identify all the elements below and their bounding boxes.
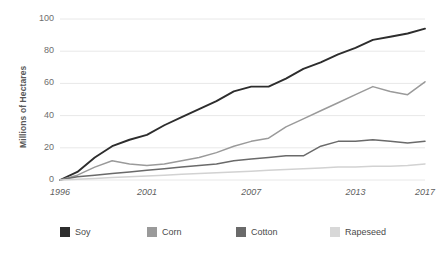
legend-label: Cotton <box>251 227 278 237</box>
series-line-corn <box>60 82 425 180</box>
legend-label: Soy <box>75 227 91 237</box>
legend-item-corn[interactable]: Corn <box>147 225 182 239</box>
legend-item-soy[interactable]: Soy <box>60 225 91 239</box>
legend-swatch-icon <box>236 227 246 237</box>
series-line-rapeseed <box>60 164 425 180</box>
legend-item-cotton[interactable]: Cotton <box>236 225 278 239</box>
legend-swatch-icon <box>330 227 340 237</box>
legend-label: Corn <box>162 227 182 237</box>
legend-item-rapeseed[interactable]: Rapeseed <box>330 225 386 239</box>
chart-legend: SoyCornCottonRapeseed <box>0 225 439 243</box>
line-chart: Millions of Hectares 020406080100 199620… <box>0 0 439 255</box>
legend-swatch-icon <box>60 227 70 237</box>
legend-swatch-icon <box>147 227 157 237</box>
legend-label: Rapeseed <box>345 227 386 237</box>
plot-area <box>0 0 439 255</box>
